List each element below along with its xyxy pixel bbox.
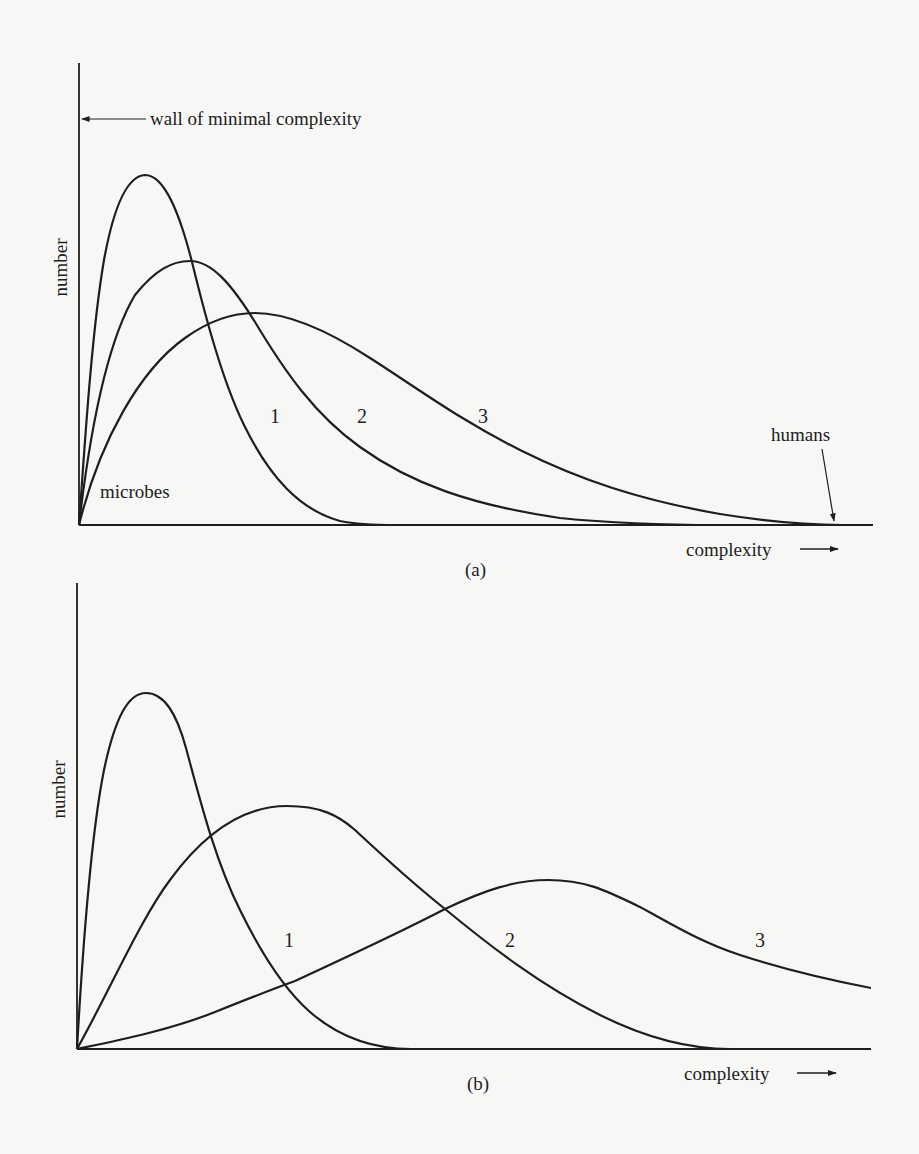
figure-drawing bbox=[0, 0, 919, 1154]
panel-b-curve-1 bbox=[77, 693, 411, 1049]
microbes-label: microbes bbox=[100, 482, 170, 501]
panel-b-y-axis-label: number bbox=[49, 760, 68, 820]
panel-b-curve-3-label: 3 bbox=[755, 930, 765, 950]
panel-a-curve-2-label: 2 bbox=[357, 406, 367, 426]
complexity-distribution-figure: wall of minimal complexity number 1 2 3 … bbox=[0, 0, 919, 1154]
humans-arrow-icon bbox=[822, 449, 834, 521]
panel-a-curve-1 bbox=[79, 175, 396, 525]
panel-b-curve-1-label: 1 bbox=[284, 930, 294, 950]
panel-b-curve-2-label: 2 bbox=[505, 930, 515, 950]
panel-a-caption: (a) bbox=[465, 560, 486, 579]
panel-b-x-axis-label: complexity bbox=[684, 1064, 769, 1083]
panel-a-curve-3-label: 3 bbox=[478, 406, 488, 426]
panel-a-curve-1-label: 1 bbox=[270, 406, 280, 426]
panel-a-curve-3 bbox=[79, 313, 842, 525]
humans-label: humans bbox=[771, 425, 830, 444]
panel-a-curve-2 bbox=[79, 261, 720, 525]
panel-a-y-axis-label: number bbox=[51, 238, 70, 298]
panel-b-curve-2 bbox=[77, 806, 730, 1049]
panel-a-x-axis-label: complexity bbox=[686, 540, 771, 559]
panel-b-caption: (b) bbox=[467, 1074, 489, 1093]
wall-of-minimal-complexity-label: wall of minimal complexity bbox=[150, 109, 362, 128]
panel-a-plot bbox=[79, 63, 873, 549]
panel-b-curve-3 bbox=[77, 880, 871, 1049]
panel-b-plot bbox=[77, 583, 871, 1073]
